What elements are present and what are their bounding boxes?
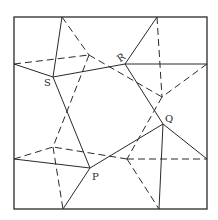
line-p-bottom [63,168,90,209]
dash-left-d [14,147,53,159]
line-q-p [90,124,163,168]
outer-square [14,17,207,209]
line-s-r [53,64,125,77]
label-q: Q [165,113,173,124]
dash-a-d [53,55,89,147]
line-q-right [163,124,207,159]
label-s: S [44,77,51,88]
dash-right-b [162,64,207,97]
line-s-p [53,77,90,168]
dash-left-a [14,55,89,64]
geometry-diagram: S R Q P [0,0,218,220]
dash-c-d [53,147,127,159]
line-left-p [14,159,90,168]
dash-c-bottom [127,159,159,209]
line-q-bottom [159,124,163,209]
line-top-s [53,17,62,77]
dash-top-b [157,17,162,97]
line-top-r [125,17,157,64]
dash-a-b [89,55,162,97]
label-p: P [92,171,99,182]
line-left-s [14,64,53,77]
dash-top-a [62,17,89,55]
dash-d-bottom [53,147,63,209]
